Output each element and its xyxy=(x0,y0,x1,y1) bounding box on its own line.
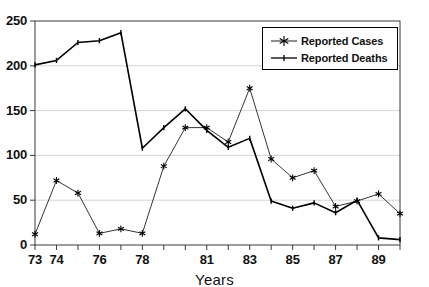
x-axis-tick-label: 74 xyxy=(42,252,70,267)
x-axis-tick-label: 83 xyxy=(236,252,264,267)
x-axis-tick-label: 85 xyxy=(279,252,307,267)
chart-legend: Reported Cases Reported Deaths xyxy=(262,27,398,70)
line-marker-icon xyxy=(267,51,301,65)
line-chart: 050100150200250 737476788183858789 Years… xyxy=(0,0,429,287)
x-axis-tick-label: 81 xyxy=(193,252,221,267)
legend-item-reported-cases: Reported Cases xyxy=(267,32,397,49)
gridlines xyxy=(35,66,400,200)
legend-label-reported-deaths: Reported Deaths xyxy=(301,52,388,64)
asterisk-marker-icon xyxy=(267,34,301,48)
legend-label-reported-cases: Reported Cases xyxy=(301,35,383,47)
x-axis-tick-label: 89 xyxy=(365,252,393,267)
x-axis-ticks xyxy=(35,245,400,250)
legend-item-reported-deaths: Reported Deaths xyxy=(267,49,397,66)
y-axis-ticks xyxy=(30,21,35,245)
y-axis-tick-label: 250 xyxy=(0,13,27,28)
x-axis-title: Years xyxy=(0,271,429,287)
x-axis-tick-label: 87 xyxy=(322,252,350,267)
y-axis-tick-label: 100 xyxy=(0,147,27,162)
series-reported-cases xyxy=(32,85,403,238)
y-axis-tick-label: 150 xyxy=(0,103,27,118)
y-axis-tick-label: 200 xyxy=(0,58,27,73)
y-axis-tick-label: 50 xyxy=(0,192,27,207)
y-axis-tick-label: 0 xyxy=(0,237,27,252)
x-axis-tick-label: 78 xyxy=(128,252,156,267)
x-axis-tick-label: 76 xyxy=(85,252,113,267)
